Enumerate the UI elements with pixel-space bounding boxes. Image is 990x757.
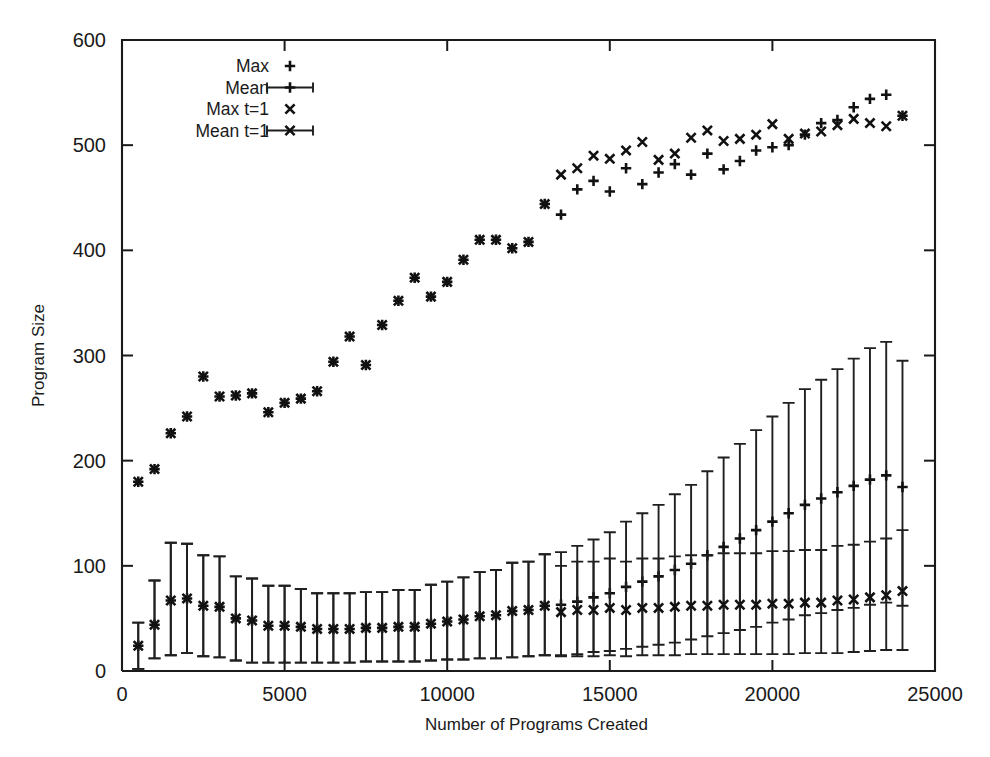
- program-size-scatter-plot: 0100200300400500600050001000015000200002…: [0, 0, 990, 757]
- legend-item-label: Max: [236, 56, 269, 76]
- x-tick-label: 20000: [745, 683, 801, 705]
- y-tick-label: 100: [73, 555, 106, 577]
- y-tick-label: 600: [73, 29, 106, 51]
- y-tick-label: 200: [73, 450, 106, 472]
- x-tick-label: 10000: [419, 683, 475, 705]
- x-tick-label: 0: [116, 683, 127, 705]
- x-tick-label: 15000: [582, 683, 638, 705]
- y-tick-label: 500: [73, 134, 106, 156]
- y-tick-label: 300: [73, 345, 106, 367]
- x-tick-label: 25000: [907, 683, 963, 705]
- x-tick-label: 5000: [262, 683, 307, 705]
- legend-item-label: Mean: [225, 78, 269, 98]
- x-axis-title: Number of Programs Created: [425, 715, 648, 734]
- plot-background: [0, 0, 990, 757]
- legend-item-label: Mean t=1: [196, 121, 269, 141]
- chart-figure: 0100200300400500600050001000015000200002…: [0, 0, 990, 757]
- y-tick-label: 400: [73, 239, 106, 261]
- y-axis-title: Program Size: [29, 304, 48, 407]
- legend-item-label: Max t=1: [206, 99, 269, 119]
- y-tick-label: 0: [95, 660, 106, 682]
